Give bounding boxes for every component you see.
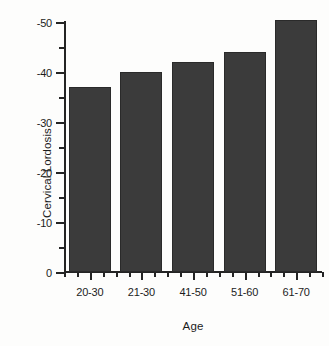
x-axis-tick-major bbox=[193, 272, 195, 280]
x-axis-tick-label: 21-30 bbox=[128, 286, 155, 298]
y-axis-tick-minor bbox=[59, 47, 64, 49]
x-axis-tick-minor bbox=[206, 272, 208, 277]
y-axis-tick-major: 0 bbox=[56, 272, 64, 274]
x-axis-tick-minor bbox=[103, 272, 105, 277]
x-axis-tick-minor bbox=[219, 272, 221, 277]
x-axis-tick-minor bbox=[232, 272, 234, 277]
x-axis-tick-minor bbox=[129, 272, 131, 277]
y-axis-tick-major: -50 bbox=[56, 22, 64, 24]
bar-41-50 bbox=[172, 62, 214, 272]
bar-61-70 bbox=[275, 20, 317, 273]
x-axis-tick-minor bbox=[309, 272, 311, 277]
plot-area: 0-10-20-30-40-5020-3021-3041-5051-6061-7… bbox=[64, 14, 322, 272]
y-axis-tick-major: -10 bbox=[56, 222, 64, 224]
x-axis-tick-major bbox=[141, 272, 143, 280]
x-axis-tick-minor bbox=[283, 272, 285, 277]
y-axis-tick-major: -40 bbox=[56, 72, 64, 74]
y-axis-title: Cervical Lordosis bbox=[41, 128, 53, 218]
x-axis-tick-minor bbox=[167, 272, 169, 277]
x-axis-tick-major bbox=[90, 272, 92, 280]
y-axis-tick-label: -50 bbox=[37, 17, 52, 29]
y-axis-tick-major: -30 bbox=[56, 122, 64, 124]
y-axis-tick-major: -20 bbox=[56, 172, 64, 174]
x-axis-tick-minor bbox=[258, 272, 260, 277]
y-axis-tick-minor bbox=[59, 97, 64, 99]
x-axis-tick-minor bbox=[270, 272, 272, 277]
y-axis-tick-label: -10 bbox=[37, 217, 52, 229]
y-axis-tick-label: 0 bbox=[46, 267, 52, 279]
bar-20-30 bbox=[69, 87, 111, 272]
bar-chart-figure: 0-10-20-30-40-5020-3021-3041-5051-6061-7… bbox=[0, 0, 329, 346]
bar-51-60 bbox=[224, 52, 266, 272]
x-axis-tick-label: 20-30 bbox=[76, 286, 103, 298]
y-axis-tick-minor bbox=[59, 147, 64, 149]
x-axis-title: Age bbox=[64, 320, 322, 332]
x-axis-tick-major bbox=[245, 272, 247, 280]
x-axis-tick-minor bbox=[116, 272, 118, 277]
y-axis-tick-label: -40 bbox=[37, 67, 52, 79]
y-axis-tick-minor bbox=[59, 197, 64, 199]
x-axis-tick-minor bbox=[154, 272, 156, 277]
x-axis-tick-major bbox=[296, 272, 298, 280]
x-axis-tick-label: 51-60 bbox=[231, 286, 258, 298]
x-axis-tick-minor bbox=[180, 272, 182, 277]
y-axis-tick-minor bbox=[59, 247, 64, 249]
x-axis-tick-minor bbox=[64, 272, 66, 277]
bar-21-30 bbox=[120, 72, 162, 272]
x-axis-tick-minor bbox=[77, 272, 79, 277]
x-axis-tick-label: 61-70 bbox=[283, 286, 310, 298]
x-axis-tick-label: 41-50 bbox=[179, 286, 206, 298]
x-axis-tick-minor bbox=[322, 272, 324, 277]
